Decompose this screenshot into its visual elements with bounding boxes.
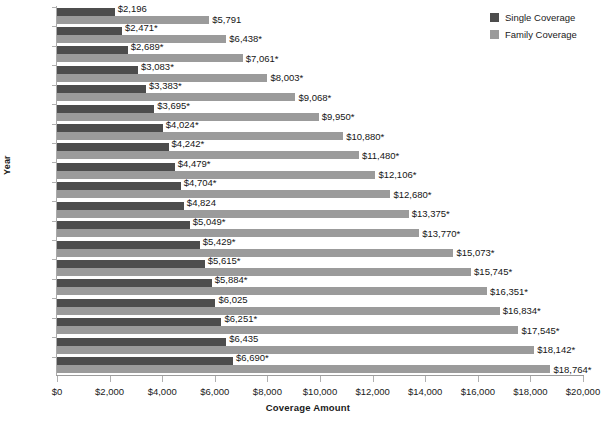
x-axis-tick — [320, 376, 321, 382]
bar-single-2015[interactable] — [57, 318, 221, 326]
bar-value-label: $16,834* — [503, 306, 541, 316]
y-axis-title: Year — [2, 155, 12, 175]
bar-value-label: $13,375* — [412, 209, 450, 219]
bar-value-label: $16,351* — [490, 287, 528, 297]
legend-label-single: Single Coverage — [505, 12, 575, 23]
bar-value-label: $6,690* — [236, 353, 269, 363]
bar-value-label: $8,003* — [270, 73, 303, 83]
chart-row: 2015$6,251*$17,545* — [57, 317, 583, 336]
bar-single-2000[interactable] — [57, 27, 122, 35]
bar-value-label: $6,435 — [229, 334, 258, 344]
bar-value-label: $17,545* — [521, 326, 559, 336]
chart-row: 2016$6,435$18,142* — [57, 336, 583, 355]
x-axis-tick-label: $18,000 — [513, 386, 547, 397]
bar-single-2002[interactable] — [57, 66, 138, 74]
bar-value-label: $15,745* — [474, 267, 512, 277]
bar-value-label: $6,251* — [224, 314, 257, 324]
bar-single-2016[interactable] — [57, 338, 226, 346]
bar-family-2016[interactable] — [57, 346, 534, 354]
x-axis-tick-label: $12,000 — [355, 386, 389, 397]
x-axis-tick-label: $16,000 — [461, 386, 495, 397]
x-axis-tick-label: $14,000 — [408, 386, 442, 397]
chart-row: 2012$5,615*$15,745* — [57, 258, 583, 277]
x-axis-tick — [530, 376, 531, 382]
bar-value-label: $6,438* — [229, 34, 262, 44]
bar-value-label: $12,106* — [378, 170, 416, 180]
chart-row: 2003$3,383*$9,068* — [57, 84, 583, 103]
bar-value-label: $5,791 — [212, 15, 241, 25]
bar-family-2010[interactable] — [57, 229, 419, 237]
legend-swatch-family-icon — [490, 30, 499, 39]
bar-single-2008[interactable] — [57, 182, 181, 190]
bar-value-label: $7,061* — [246, 54, 279, 64]
bar-family-2011[interactable] — [57, 249, 453, 257]
bar-chart: Year 1999$2,196$5,7912000$2,471*$6,438*2… — [0, 0, 616, 421]
bar-single-1999[interactable] — [57, 8, 115, 16]
bar-family-2012[interactable] — [57, 268, 471, 276]
bar-value-label: $5,884* — [215, 275, 248, 285]
plot-area: 1999$2,196$5,7912000$2,471*$6,438*2001$2… — [57, 6, 583, 375]
bar-family-2013[interactable] — [57, 287, 487, 295]
legend-item-single[interactable]: Single Coverage — [490, 10, 608, 25]
bar-value-label: $4,024* — [166, 120, 199, 130]
x-axis-tick — [162, 376, 163, 382]
bar-family-2015[interactable] — [57, 326, 518, 334]
x-axis-tick — [110, 376, 111, 382]
x-axis-tick-label: $8,000 — [253, 386, 282, 397]
bar-value-label: $5,615* — [208, 256, 241, 266]
x-axis-tick-label: $20,000 — [566, 386, 600, 397]
bar-value-label: $11,480* — [362, 151, 399, 161]
x-axis-tick-label: $10,000 — [303, 386, 337, 397]
bar-single-2005[interactable] — [57, 124, 163, 132]
bar-value-label: $6,025 — [218, 295, 247, 305]
chart-row: 2006$4,242*$11,480* — [57, 142, 583, 161]
bar-value-label: $13,770* — [422, 229, 460, 239]
bar-single-2009[interactable] — [57, 202, 184, 210]
x-axis-title: Coverage Amount — [0, 402, 616, 413]
x-axis-tick-label: $6,000 — [200, 386, 229, 397]
bar-single-2014[interactable] — [57, 299, 215, 307]
bar-value-label: $18,142* — [537, 345, 575, 355]
x-axis-tick-label: $4,000 — [148, 386, 177, 397]
bar-single-2003[interactable] — [57, 85, 146, 93]
bar-single-2007[interactable] — [57, 163, 175, 171]
chart-row: 2009$4,824$13,375* — [57, 200, 583, 219]
chart-row: 2011$5,429*$15,073* — [57, 239, 583, 258]
bar-single-2001[interactable] — [57, 46, 128, 54]
legend-swatch-single-icon — [490, 13, 499, 22]
x-axis-tick-label: $0 — [52, 386, 63, 397]
bar-single-2006[interactable] — [57, 143, 169, 151]
bar-value-label: $3,083* — [141, 62, 174, 72]
bar-value-label: $2,689* — [131, 42, 164, 52]
bar-single-2012[interactable] — [57, 260, 205, 268]
bar-value-label: $5,049* — [193, 217, 226, 227]
x-axis-tick — [267, 376, 268, 382]
bar-family-2014[interactable] — [57, 307, 500, 315]
bar-single-2013[interactable] — [57, 279, 212, 287]
bar-value-label: $4,824 — [187, 198, 216, 208]
bar-value-label: $10,880* — [346, 132, 384, 142]
bar-single-2004[interactable] — [57, 105, 154, 113]
x-axis-tick — [373, 376, 374, 382]
x-axis-tick-label: $2,000 — [95, 386, 124, 397]
bar-value-label: $4,704* — [184, 178, 217, 188]
bar-value-label: $12,680* — [393, 190, 431, 200]
bar-single-2010[interactable] — [57, 221, 190, 229]
bar-value-label: $5,429* — [203, 237, 236, 247]
x-axis-tick — [215, 376, 216, 382]
chart-row: 2013$5,884*$16,351* — [57, 278, 583, 297]
legend-item-family[interactable]: Family Coverage — [490, 27, 608, 42]
x-axis-tick — [583, 376, 584, 382]
bar-value-label: $15,073* — [456, 248, 494, 258]
bar-family-2008[interactable] — [57, 190, 390, 198]
bar-value-label: $18,764* — [553, 365, 591, 375]
bar-single-2017[interactable] — [57, 357, 233, 365]
bar-value-label: $9,950* — [322, 112, 355, 122]
bar-family-2017[interactable] — [57, 365, 550, 373]
chart-row: 2007$4,479*$12,106* — [57, 161, 583, 180]
x-axis-tick — [57, 376, 58, 382]
bar-value-label: $3,695* — [157, 101, 190, 111]
chart-row: 2010$5,049*$13,770* — [57, 220, 583, 239]
bar-family-2009[interactable] — [57, 210, 409, 218]
bar-single-2011[interactable] — [57, 241, 200, 249]
